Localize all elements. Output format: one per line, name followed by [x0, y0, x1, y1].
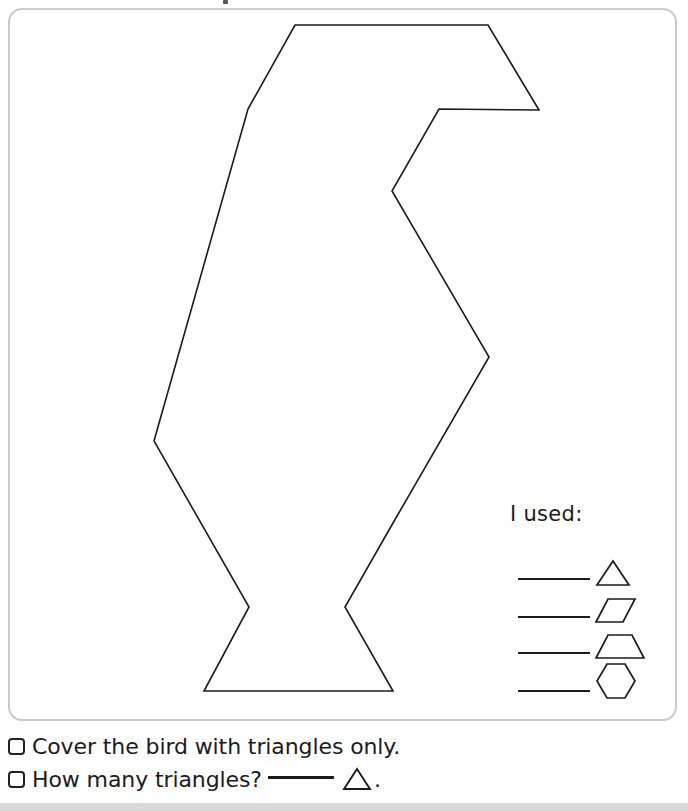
hexagon-icon: [594, 662, 638, 700]
legend-row-triangle[interactable]: [510, 548, 670, 588]
checkbox-how-many[interactable]: [8, 771, 25, 788]
checklist-item-how-many[interactable]: How many triangles? .: [8, 763, 381, 795]
legend-blank-triangle[interactable]: [518, 578, 590, 580]
checklist: Cover the bird with triangles only. How …: [0, 730, 688, 805]
triangle-icon: [594, 558, 632, 588]
cut-off-text-remnant: [223, 0, 228, 4]
checklist-trailing-period: .: [374, 767, 381, 792]
triangle-icon: [341, 766, 373, 792]
legend-blank-hexagon[interactable]: [518, 690, 590, 692]
answer-blank-how-many[interactable]: [268, 776, 334, 779]
page-bottom-rule: [0, 803, 688, 811]
legend-blank-rhombus[interactable]: [518, 616, 590, 618]
bird-outline-polygon: [154, 25, 539, 691]
checkbox-cover-bird[interactable]: [8, 738, 25, 755]
worksheet-card: I used:: [8, 8, 677, 721]
checklist-item-cover-bird[interactable]: Cover the bird with triangles only.: [8, 730, 400, 762]
trapezoid-icon: [594, 632, 646, 662]
legend-row-rhombus[interactable]: [510, 586, 670, 626]
legend-title: I used:: [510, 502, 583, 526]
legend-i-used: I used:: [510, 502, 670, 712]
legend-row-trapezoid[interactable]: [510, 622, 670, 662]
checklist-label-cover-bird: Cover the bird with triangles only.: [32, 734, 400, 759]
legend-row-hexagon[interactable]: [510, 660, 670, 700]
page-top-margin: [0, 0, 688, 8]
legend-blank-trapezoid[interactable]: [518, 652, 590, 654]
checklist-label-how-many: How many triangles?: [32, 767, 262, 792]
